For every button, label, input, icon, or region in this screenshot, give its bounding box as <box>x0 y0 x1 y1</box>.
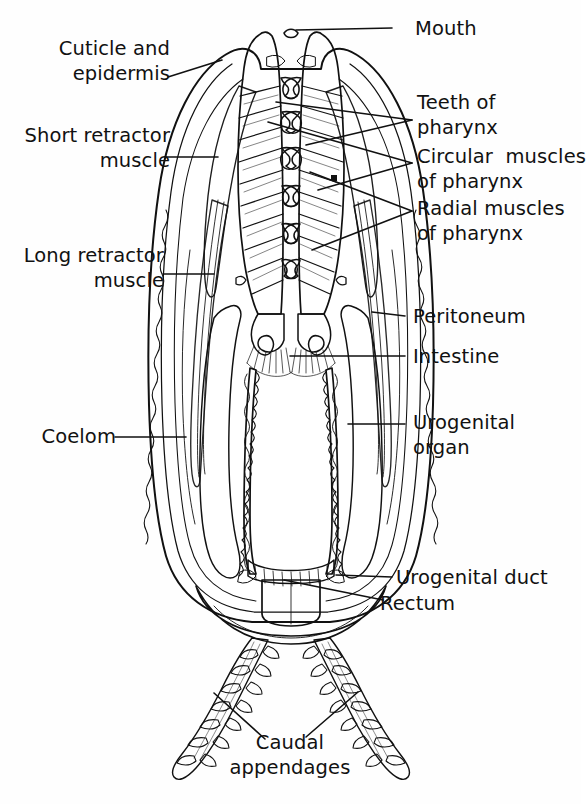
label-coelom: Coelom <box>10 424 116 449</box>
label-intestine: Intestine <box>413 344 563 369</box>
label-urogenital-duct: Urogenital duct <box>396 565 576 590</box>
label-short-retractor-muscle: Short retractor muscle <box>4 123 170 173</box>
label-teeth-of-pharynx: Teeth of pharynx <box>417 90 577 140</box>
label-long-retractor-muscle: Long retractor muscle <box>4 243 164 293</box>
label-circular-muscles-of-pharynx: Circular muscles of pharynx <box>417 144 583 194</box>
label-rectum: Rectum <box>380 591 530 616</box>
label-radial-muscles-of-pharynx: Radial muscles of pharynx <box>417 196 581 246</box>
body-wall-group <box>144 49 438 622</box>
label-caudal-appendages: Caudal appendages <box>196 730 384 780</box>
label-mouth: Mouth <box>415 16 565 41</box>
label-urogenital-organ: Urogenital organ <box>413 410 563 460</box>
cuticle-outline <box>148 49 433 622</box>
label-cuticle-and-epidermis: Cuticle and epidermis <box>20 36 170 86</box>
label-peritoneum: Peritoneum <box>413 304 573 329</box>
